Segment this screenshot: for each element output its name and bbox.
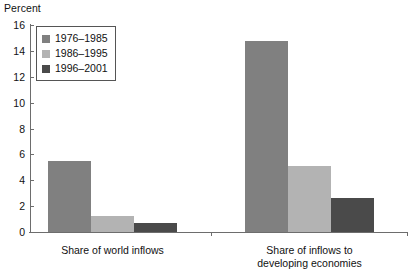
x-axis-label-line: Share of world inflows [13, 244, 213, 257]
x-axis-label-group-2: Share of inflows todeveloping economies [210, 244, 409, 270]
legend-item-1: 1976–1985 [42, 31, 108, 46]
legend-swatch-icon [42, 50, 50, 58]
x-axis-label-line: Share of inflows to [210, 244, 409, 257]
x-axis-label-group-1: Share of world inflows [13, 244, 213, 257]
legend-label: 1996–2001 [55, 63, 108, 74]
bar-chart: Percent 0246810121416 Share of world inf… [0, 0, 409, 278]
bar-group-2-series-1 [245, 41, 288, 232]
bar-group-2-series-2 [288, 166, 331, 232]
x-axis-label-line: developing economies [210, 257, 409, 270]
x-tick-2 [407, 232, 408, 236]
bar-group-1-series-3 [134, 223, 177, 232]
bar-group-2-series-3 [331, 198, 374, 232]
chart-legend: 1976–19851986–19951996–2001 [36, 26, 116, 81]
legend-label: 1986–1995 [55, 48, 108, 59]
legend-label: 1976–1985 [55, 33, 108, 44]
legend-swatch-icon [42, 65, 50, 73]
legend-item-2: 1986–1995 [42, 46, 108, 61]
bar-group-1-series-2 [91, 216, 134, 232]
bar-group-1-series-1 [48, 161, 91, 232]
legend-item-3: 1996–2001 [42, 61, 108, 76]
x-tick-1 [211, 232, 212, 236]
legend-swatch-icon [42, 35, 50, 43]
